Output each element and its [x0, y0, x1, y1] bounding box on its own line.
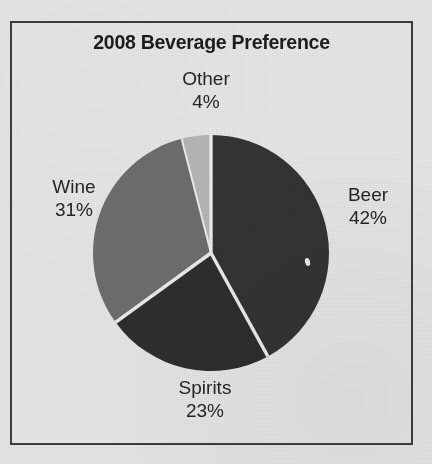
pie-label-beer-value: 42% [322, 206, 414, 229]
pie-label-beer-name: Beer [322, 183, 414, 206]
pie-label-other: Other 4% [146, 67, 266, 113]
pie-label-wine-name: Wine [22, 175, 126, 198]
pie-label-wine: Wine 31% [22, 175, 126, 221]
pie-label-spirits: Spirits 23% [140, 376, 270, 422]
pie-label-spirits-value: 23% [140, 399, 270, 422]
pie-label-other-value: 4% [146, 90, 266, 113]
pie-label-beer: Beer 42% [322, 183, 414, 229]
pie-label-wine-value: 31% [22, 198, 126, 221]
pie-label-spirits-name: Spirits [140, 376, 270, 399]
pie-label-other-name: Other [146, 67, 266, 90]
